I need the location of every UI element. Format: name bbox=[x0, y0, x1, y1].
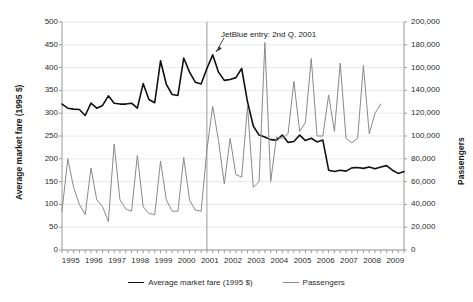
y-axis-right-tick-label: 180,000 bbox=[411, 40, 440, 49]
y-axis-left-tick-label: 100 bbox=[26, 199, 58, 208]
legend-swatch-fare-line-icon bbox=[128, 282, 144, 283]
legend-label-passengers: Passengers bbox=[303, 278, 345, 287]
y-axis-right-tick-label: 200,000 bbox=[411, 17, 440, 26]
y-axis-left-tick-label: 250 bbox=[26, 131, 58, 140]
y-axis-left-tick-label: 0 bbox=[26, 245, 58, 254]
y-axis-right-tick-label: 60,000 bbox=[411, 177, 435, 186]
y-axis-right-tick-label: 80,000 bbox=[411, 154, 435, 163]
data-series-group bbox=[62, 43, 404, 222]
y-axis-left-tick-label: 50 bbox=[26, 222, 58, 231]
y-axis-right-tick-label: 0 bbox=[411, 245, 415, 254]
y-axis-right-tick-label: 160,000 bbox=[411, 63, 440, 72]
y-axis-right-tick-label: 120,000 bbox=[411, 108, 440, 117]
legend-item-fare: Average market fare (1995 $) bbox=[128, 278, 252, 287]
y-axis-right-title: Passengers bbox=[456, 137, 466, 185]
gridlines-group bbox=[62, 22, 404, 250]
y-axis-left-tick-label: 300 bbox=[26, 108, 58, 117]
y-axis-left-tick-label: 200 bbox=[26, 154, 58, 163]
x-axis-tick-label: 2009 bbox=[381, 256, 409, 265]
y-axis-right-tick-label: 20,000 bbox=[411, 222, 435, 231]
y-axis-right-tick-label: 100,000 bbox=[411, 131, 440, 140]
annotation-jetblue-entry: JetBlue entry: 2nd Q, 2001 bbox=[221, 30, 316, 39]
y-axis-left-tick-label: 500 bbox=[26, 17, 58, 26]
y-axis-right-tick-label: 140,000 bbox=[411, 85, 440, 94]
y-axis-right-tick-label: 40,000 bbox=[411, 199, 435, 208]
chart-container: Average market fare (1995 $) Passengers … bbox=[0, 0, 473, 302]
y-axis-left-tick-label: 400 bbox=[26, 63, 58, 72]
legend-label-fare: Average market fare (1995 $) bbox=[148, 278, 252, 287]
chart-legend: Average market fare (1995 $) Passengers bbox=[0, 278, 473, 287]
legend-swatch-passenger-line-icon bbox=[283, 282, 299, 283]
y-axis-left-title: Average market fare (1995 $) bbox=[14, 85, 24, 200]
y-axis-left-tick-label: 350 bbox=[26, 85, 58, 94]
y-axis-left-tick-label: 450 bbox=[26, 40, 58, 49]
series-line-passengers bbox=[62, 43, 381, 222]
y-axis-left-tick-label: 150 bbox=[26, 177, 58, 186]
legend-item-passengers: Passengers bbox=[283, 278, 345, 287]
